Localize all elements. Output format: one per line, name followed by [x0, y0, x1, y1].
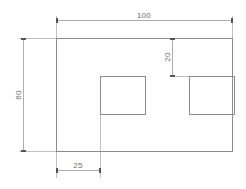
dim-label-cutout-left-offset: 25: [73, 161, 83, 170]
dim-label-overall-height: 60: [14, 90, 23, 100]
left-square-cutout: [101, 77, 146, 115]
dim-label-cutout-top-offset: 20: [163, 52, 172, 62]
dimension-cutout-top-offset: 20: [163, 39, 175, 77]
technical-drawing-canvas: 100 60 20 25: [0, 0, 246, 189]
extension-lines: [19, 16, 233, 178]
drawing-svg: 100 60 20 25: [0, 0, 246, 189]
dim-label-overall-width: 100: [137, 11, 151, 20]
dimension-cutout-left-offset: 25: [57, 161, 101, 173]
dimension-overall-width: 100: [57, 11, 233, 23]
main-plate-outline: [57, 39, 233, 152]
right-square-cutout: [190, 77, 235, 115]
dimension-overall-height: 60: [14, 39, 26, 152]
